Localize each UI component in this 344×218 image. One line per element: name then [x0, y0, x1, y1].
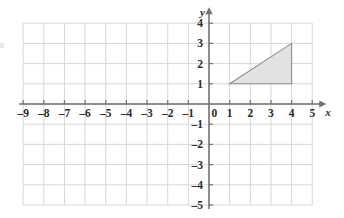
y-axis-name: y: [198, 6, 205, 18]
x-tick-label: –2: [161, 107, 174, 119]
x-tick-label: –1: [182, 107, 195, 119]
x-axis-name: x: [324, 106, 331, 118]
x-tick-label: 3: [268, 107, 274, 119]
y-tick-label: –4: [191, 179, 204, 191]
y-tick-label: 3: [197, 37, 203, 49]
x-tick-label: 5: [309, 107, 315, 119]
y-tick-label: 2: [197, 58, 203, 70]
x-tick-label: 2: [247, 107, 253, 119]
x-tick-label: –7: [58, 107, 71, 119]
x-tick-label: 1: [227, 107, 233, 119]
y-tick-label: –1: [191, 118, 204, 130]
x-tick-label: –3: [140, 107, 153, 119]
x-tick-label: –4: [120, 107, 133, 119]
origin-label: 0: [212, 107, 218, 119]
coordinate-plane-svg: –9–8–7–6–5–4–3–2–1012345–5–4–3–2–11234xy: [0, 0, 344, 218]
left-edge-artifact: [0, 43, 4, 48]
y-tick-label: –5: [191, 199, 204, 211]
x-tick-label: –6: [78, 107, 91, 119]
x-tick-label: –8: [37, 107, 50, 119]
coordinate-plane-figure: –9–8–7–6–5–4–3–2–1012345–5–4–3–2–11234xy: [0, 0, 344, 218]
y-tick-label: –3: [191, 159, 204, 171]
y-tick-label: –2: [191, 138, 204, 150]
x-tick-label: –9: [16, 107, 29, 119]
y-tick-label: 1: [197, 78, 203, 90]
x-tick-label: 4: [289, 107, 295, 119]
y-tick-label: 4: [197, 17, 203, 29]
x-tick-label: –5: [99, 107, 112, 119]
